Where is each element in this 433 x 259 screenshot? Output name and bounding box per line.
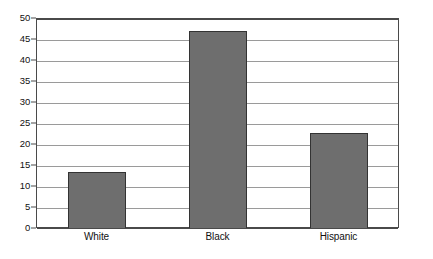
bars-layer [36,18,399,228]
x-tick-label: Hispanic [320,232,358,242]
gridline [37,228,398,229]
bar [68,172,126,228]
x-axis: WhiteBlackHispanic [36,232,399,250]
x-tick-label: White [84,232,109,242]
bar-chart: 05101520253035404550 WhiteBlackHispanic [0,0,433,259]
x-tick-label: Black [206,232,230,242]
y-axis-tick-marks [0,18,36,228]
bar [310,133,368,228]
bar [189,31,247,228]
